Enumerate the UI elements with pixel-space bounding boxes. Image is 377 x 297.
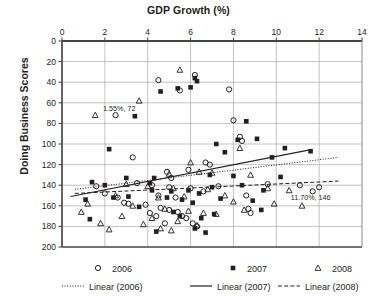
trendlines-group xyxy=(71,150,339,196)
data-point-2006 xyxy=(173,195,178,200)
series-2007-points xyxy=(83,76,313,235)
data-point-2007 xyxy=(90,180,95,185)
data-point-2006 xyxy=(184,216,189,221)
y-tick-100: 100 xyxy=(42,139,56,149)
data-point-2008 xyxy=(201,210,207,215)
data-point-2006 xyxy=(175,209,180,214)
data-point-2007 xyxy=(250,198,255,203)
data-point-2007 xyxy=(178,214,183,219)
legend-label-2008: 2008 xyxy=(332,264,352,274)
annotation-label: 11.70%, 146 xyxy=(291,193,331,202)
data-point-2008 xyxy=(168,228,174,233)
data-point-2008 xyxy=(106,226,112,231)
data-point-2007 xyxy=(223,150,228,155)
data-point-2008 xyxy=(136,98,142,103)
data-point-2007 xyxy=(195,79,200,84)
data-point-2007 xyxy=(124,176,129,181)
x-tick-2: 2 xyxy=(102,27,107,37)
data-point-2008 xyxy=(248,172,254,177)
data-point-2007 xyxy=(308,149,313,154)
trendline-linear--2006- xyxy=(75,157,339,189)
legend-line-label: Linear (2007) xyxy=(217,282,271,292)
data-point-2007 xyxy=(255,137,260,142)
data-point-2007 xyxy=(203,230,208,235)
data-point-2007 xyxy=(171,210,176,215)
data-point-2008 xyxy=(237,145,243,150)
data-point-2006 xyxy=(239,138,244,143)
data-point-2006 xyxy=(227,87,232,92)
data-point-2006 xyxy=(186,167,191,172)
data-point-2007 xyxy=(126,194,131,199)
y-tick-140: 140 xyxy=(42,180,56,190)
data-point-2007 xyxy=(214,142,219,147)
data-point-2007 xyxy=(283,146,288,151)
data-point-2006 xyxy=(130,155,135,160)
data-point-2007 xyxy=(107,147,112,152)
legend-marker-2007 xyxy=(231,266,236,271)
data-point-2007 xyxy=(235,138,240,143)
data-point-2007 xyxy=(165,195,170,200)
data-point-2007 xyxy=(137,205,142,210)
x-tick-4: 4 xyxy=(145,27,150,37)
x-tick-14: 14 xyxy=(357,27,367,37)
data-point-2007 xyxy=(133,114,138,119)
axis-frame xyxy=(59,38,363,248)
data-point-2007 xyxy=(244,119,249,124)
data-point-2006 xyxy=(248,210,253,215)
data-point-2007 xyxy=(199,216,204,221)
x-tick-6: 6 xyxy=(188,27,193,37)
data-point-2007 xyxy=(278,175,283,180)
data-point-2007 xyxy=(188,85,193,90)
y-tick-200: 200 xyxy=(42,242,56,252)
data-point-2008 xyxy=(119,213,125,218)
data-point-2008 xyxy=(286,187,292,192)
data-point-2008 xyxy=(177,67,183,72)
y-tick-20: 20 xyxy=(47,57,57,67)
x-tick-10: 10 xyxy=(272,27,282,37)
x-tick-12: 12 xyxy=(314,27,324,37)
legend-marker-2006 xyxy=(95,265,100,270)
legend-line-label: Linear (2008) xyxy=(305,282,359,292)
data-point-2007 xyxy=(240,183,245,188)
y-axis-tick-labels: 020406080100120140160180200 xyxy=(42,36,56,252)
y-tick-80: 80 xyxy=(47,118,57,128)
data-point-2007 xyxy=(152,176,157,181)
x-tick-8: 8 xyxy=(231,27,236,37)
data-point-2007 xyxy=(210,185,215,190)
scatter-plot-svg: 02468101214 020406080100120140160180200 … xyxy=(0,0,377,297)
data-point-2007 xyxy=(88,217,93,222)
y-tick-180: 180 xyxy=(42,221,56,231)
annotation-label: 1.55%, 72 xyxy=(103,104,135,113)
chart-container: GDP Growth (%) Doing Business Scores 024… xyxy=(0,0,377,297)
data-point-2007 xyxy=(270,155,275,160)
data-point-2008 xyxy=(92,112,98,117)
data-point-2006 xyxy=(154,214,159,219)
data-point-2008 xyxy=(141,221,147,226)
y-tick-120: 120 xyxy=(42,160,56,170)
data-point-2006 xyxy=(143,202,148,207)
chart-legend: 200620072008Linear (2006)Linear (2007)Li… xyxy=(62,264,359,292)
x-tick-0: 0 xyxy=(60,27,65,37)
data-point-2007 xyxy=(103,183,108,188)
data-point-2006 xyxy=(113,113,118,118)
y-tick-40: 40 xyxy=(47,77,57,87)
data-point-2007 xyxy=(231,174,236,179)
data-point-2007 xyxy=(186,188,191,193)
data-point-2007 xyxy=(175,86,180,91)
y-tick-0: 0 xyxy=(51,36,56,46)
data-point-2007 xyxy=(190,200,195,205)
legend-line-label: Linear (2006) xyxy=(89,282,143,292)
data-point-2007 xyxy=(259,208,264,213)
y-tick-60: 60 xyxy=(47,98,57,108)
data-point-2008 xyxy=(78,209,84,214)
data-point-2008 xyxy=(222,193,228,198)
legend-marker-2008 xyxy=(315,265,321,270)
data-point-2007 xyxy=(158,89,163,94)
data-point-2008 xyxy=(98,220,104,225)
y-tick-160: 160 xyxy=(42,201,56,211)
data-point-2006 xyxy=(162,221,167,226)
legend-label-2007: 2007 xyxy=(247,264,267,274)
x-axis-tick-labels: 02468101214 xyxy=(60,27,367,37)
data-point-2007 xyxy=(197,191,202,196)
series-2008-points xyxy=(78,67,305,233)
